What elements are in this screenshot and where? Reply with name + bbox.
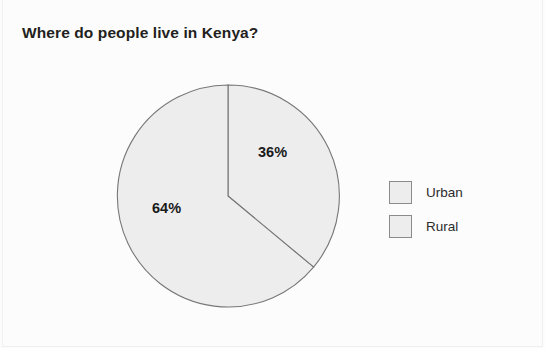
pie-chart bbox=[115, 83, 341, 309]
legend-label-rural: Rural bbox=[426, 219, 458, 234]
legend-item-rural[interactable]: Rural bbox=[389, 214, 529, 238]
legend-item-urban[interactable]: Urban bbox=[389, 180, 529, 204]
legend-swatch-rural bbox=[389, 215, 412, 238]
chart-title: Where do people live in Kenya? bbox=[22, 24, 258, 42]
chart-legend: Urban Rural bbox=[389, 180, 529, 248]
pie-chart-svg bbox=[115, 83, 341, 309]
pie-label-urban: 36% bbox=[258, 144, 287, 160]
chart-canvas: Where do people live in Kenya? 36% 64% U… bbox=[0, 0, 545, 348]
legend-swatch-urban bbox=[389, 181, 412, 204]
legend-label-urban: Urban bbox=[426, 185, 463, 200]
pie-label-rural: 64% bbox=[152, 200, 181, 216]
